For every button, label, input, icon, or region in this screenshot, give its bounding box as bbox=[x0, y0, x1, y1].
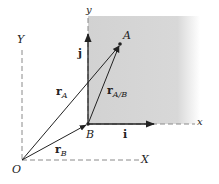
point-A-label: A bbox=[123, 30, 131, 41]
i-label: i bbox=[123, 129, 127, 140]
j-label: j bbox=[78, 48, 82, 59]
point-B-label: B bbox=[86, 129, 94, 140]
X-axis-label: X bbox=[141, 154, 149, 165]
point-O-label: O bbox=[12, 164, 21, 175]
point-B bbox=[86, 122, 90, 126]
rA-label: rA bbox=[56, 86, 68, 100]
point-A bbox=[118, 42, 122, 46]
rAB-label: rA/B bbox=[107, 85, 127, 99]
rB-sub: B bbox=[61, 149, 67, 158]
x-axis-label: x bbox=[197, 117, 203, 127]
rB-label: rB bbox=[55, 144, 67, 158]
relative-motion-diagram: Y X y x j i A B O rA rB rA/B bbox=[0, 0, 219, 184]
rAB-sub: A/B bbox=[113, 90, 127, 99]
y-axis-label: y bbox=[86, 5, 92, 15]
Y-axis-label: Y bbox=[17, 34, 24, 45]
moving-frame-region bbox=[88, 16, 200, 124]
rB-vector bbox=[22, 125, 86, 160]
rA-sub: A bbox=[62, 91, 68, 100]
